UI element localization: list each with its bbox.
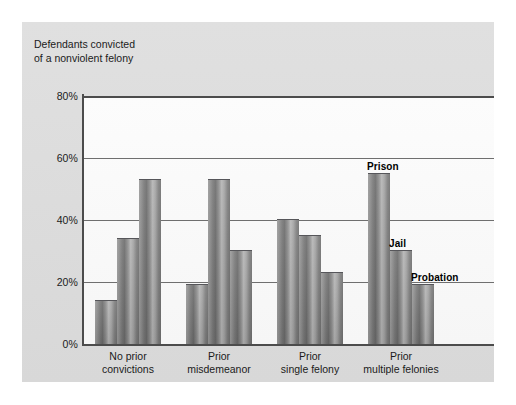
axis-title: Defendants convicted of a nonviolent fel… — [34, 38, 135, 65]
bar-prison-group-1 — [186, 284, 208, 344]
y-tick-label-40: 40% — [32, 214, 78, 226]
bar-prison-group-2 — [277, 219, 299, 344]
y-tick-label-80: 80% — [32, 90, 78, 102]
annotation-jail: Jail — [389, 238, 406, 249]
figure-canvas: Defendants convicted of a nonviolent fel… — [0, 0, 516, 405]
bar-prison-group-3 — [368, 173, 390, 345]
x-group-label-3: Prior multiple felonies — [341, 350, 461, 375]
y-tick-20: 20% — [22, 276, 78, 288]
y-tick-60: 60% — [22, 152, 78, 164]
bar-probation-group-0 — [139, 179, 161, 344]
chart-panel: Defendants convicted of a nonviolent fel… — [22, 22, 494, 382]
annotation-prison: Prison — [367, 161, 399, 172]
y-tick-40: 40% — [22, 214, 78, 226]
bar-jail-group-1 — [208, 179, 230, 344]
x-axis-baseline — [82, 344, 494, 346]
y-axis-line — [82, 94, 84, 346]
y-tick-label-0: 0% — [32, 338, 78, 350]
y-tick-80: 80% — [22, 90, 78, 102]
bar-jail-group-2 — [299, 235, 321, 345]
gridline-60 — [83, 158, 494, 159]
annotation-probation: Probation — [411, 272, 459, 283]
y-tick-label-20: 20% — [32, 276, 78, 288]
y-tick-0: 0% — [22, 338, 78, 350]
bar-probation-group-1 — [230, 250, 252, 344]
gridline-80 — [83, 96, 494, 98]
bar-prison-group-0 — [95, 300, 117, 344]
bar-probation-group-2 — [321, 272, 343, 344]
bar-probation-group-3 — [412, 284, 434, 344]
bar-jail-group-0 — [117, 238, 139, 344]
bar-jail-group-3 — [390, 250, 412, 344]
y-tick-label-60: 60% — [32, 152, 78, 164]
